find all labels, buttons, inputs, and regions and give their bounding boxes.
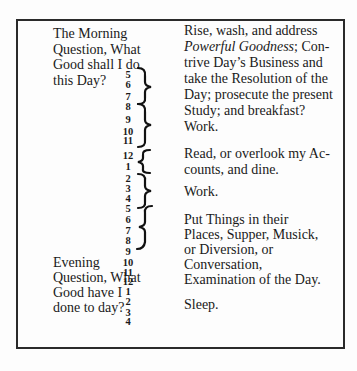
activity-line: counts, and dine. [184, 162, 279, 178]
brace-icon [138, 104, 151, 147]
work-entry: Work. [184, 184, 218, 200]
activity-line-italic: Powerful Goodness [184, 39, 294, 54]
sleep-entry: Sleep. [184, 297, 219, 313]
activity-line: Read, or overlook my Ac- [184, 146, 330, 162]
activity-line: take the Resolution of the [184, 71, 328, 87]
activity-line: Day; prosecute the present [184, 87, 333, 103]
brace-icon [138, 68, 151, 104]
brace-icon [137, 206, 152, 249]
activity-line: Rise, wash, and address [184, 23, 317, 39]
activity-line: Put Things in their [184, 212, 288, 228]
activity-line: Conversation, [184, 257, 262, 273]
brace-icon [138, 174, 151, 208]
activity-line: Study; and breakfast? [184, 103, 305, 119]
activity-line: Powerful Goodness; Con- [184, 39, 329, 55]
work-entry: Work. [184, 119, 218, 135]
activity-line: Places, Supper, Musick, [184, 227, 318, 243]
brace-icon [138, 150, 150, 173]
activity-line-rest: ; Con- [294, 39, 329, 54]
activity-line: trive Day’s Business and [184, 55, 323, 71]
activity-line: or Diversion, or [184, 242, 273, 258]
activity-line: Examination of the Day. [184, 272, 321, 288]
